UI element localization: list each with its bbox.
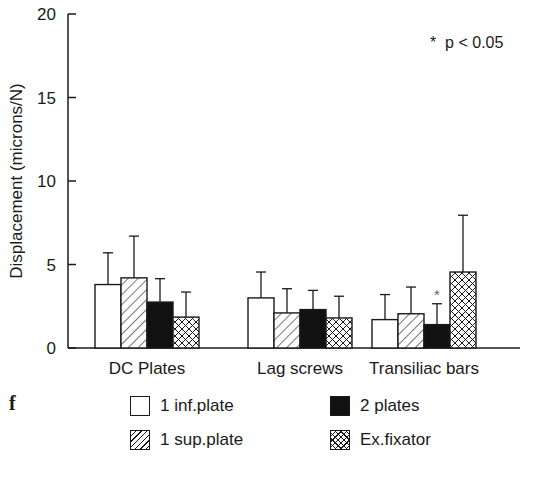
bar xyxy=(173,317,199,348)
bar xyxy=(147,302,173,348)
bar xyxy=(274,313,300,348)
legend-item: Ex.fixator xyxy=(330,430,431,450)
legend-item: 1 inf.plate xyxy=(130,396,234,416)
bars: DC PlatesLag screwsTransiliac bars* xyxy=(95,215,479,378)
y-axis-label: Displacement (microns/N) xyxy=(7,83,26,279)
bar xyxy=(95,285,121,348)
y-tick-label: 0 xyxy=(47,339,56,358)
bar xyxy=(372,320,398,348)
bar xyxy=(398,314,424,348)
bar xyxy=(248,298,274,348)
y-tick-label: 15 xyxy=(37,89,56,108)
bar xyxy=(326,318,352,348)
significance-asterisk: * xyxy=(434,286,440,303)
legend-label: 1 sup.plate xyxy=(160,430,243,450)
panel-letter: f xyxy=(9,392,16,415)
x-category-label: Lag screws xyxy=(257,359,343,378)
significance-note: * p < 0.05 xyxy=(430,34,503,51)
legend-label: 2 plates xyxy=(360,396,420,416)
legend-swatch xyxy=(130,430,150,450)
y-tick-label: 10 xyxy=(37,172,56,191)
legend-label: 1 inf.plate xyxy=(160,396,234,416)
y-tick-label: 20 xyxy=(37,5,56,24)
y-tick-label: 5 xyxy=(47,256,56,275)
legend-item: 2 plates xyxy=(330,396,420,416)
bar xyxy=(424,325,450,348)
x-category-label: DC Plates xyxy=(109,359,186,378)
bar-chart: 05101520 DC PlatesLag screwsTransiliac b… xyxy=(0,0,546,486)
bar xyxy=(300,310,326,348)
legend-swatch xyxy=(330,396,350,416)
legend-label: Ex.fixator xyxy=(360,430,431,450)
x-category-label: Transiliac bars xyxy=(369,359,479,378)
bar xyxy=(450,272,476,348)
legend-swatch xyxy=(330,430,350,450)
legend-item: 1 sup.plate xyxy=(130,430,243,450)
bar xyxy=(121,278,147,348)
legend-swatch xyxy=(130,396,150,416)
